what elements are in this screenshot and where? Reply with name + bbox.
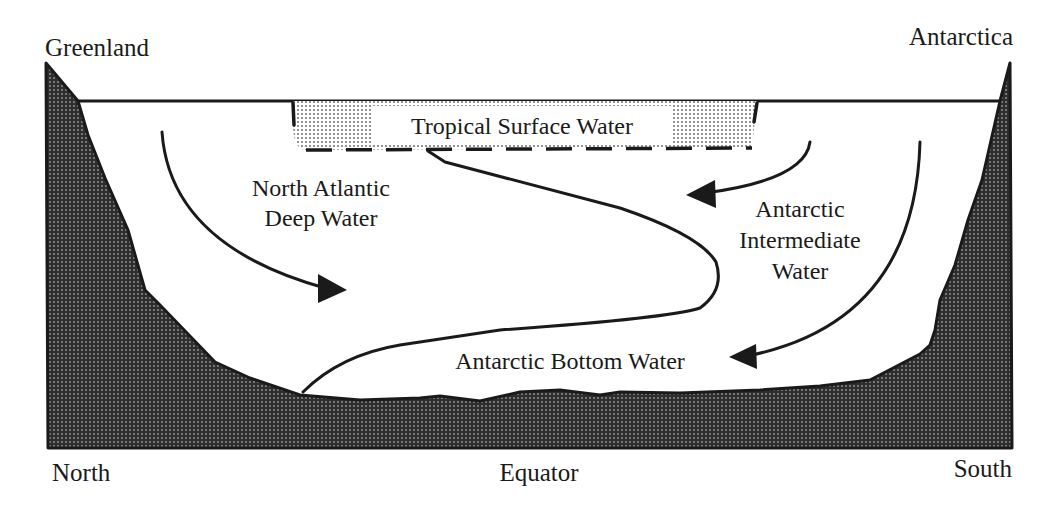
north-axis-label: North [52, 459, 111, 486]
aabw-arrowhead [729, 344, 757, 369]
tropical-surface-water-label: Tropical Surface Water [411, 113, 633, 139]
aaiw-label-line2: Intermediate [739, 227, 860, 253]
nadw-label-line1: North Atlantic [252, 175, 390, 201]
aaiw-label-line3: Water [772, 258, 829, 284]
antarctica-label: Antarctica [909, 23, 1013, 50]
south-axis-label: South [954, 455, 1013, 482]
aaiw-label-line1: Antarctic [755, 196, 844, 222]
nadw-label-line2: Deep Water [265, 205, 378, 231]
aaiw-arrowhead [686, 180, 716, 208]
tropical-left-wall [293, 103, 294, 125]
aabw-label: Antarctic Bottom Water [455, 348, 685, 374]
equator-axis-label: Equator [499, 459, 579, 486]
nadw-arrowhead [318, 274, 347, 303]
ocean-circulation-diagram: Greenland Antarctica Tropical Surface Wa… [0, 0, 1050, 508]
greenland-label: Greenland [45, 34, 150, 61]
